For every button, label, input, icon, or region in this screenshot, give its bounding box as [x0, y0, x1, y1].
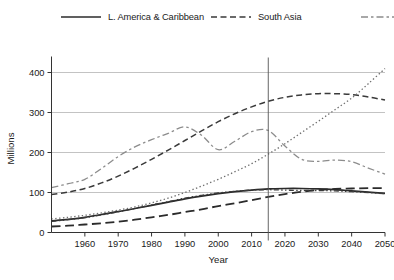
series-line-sub-saharan-africa: [52, 69, 386, 219]
x-tick-label: 2050: [375, 239, 394, 249]
x-tick-label: 1990: [175, 239, 196, 249]
x-tick-label: 2000: [208, 239, 229, 249]
y-tick-label: 300: [29, 108, 45, 118]
gridlines: [52, 73, 386, 193]
chart-svg: 0100200300400196019701980199020002010202…: [0, 0, 394, 280]
x-tick-label: 1980: [141, 239, 162, 249]
x-tick-label: 1970: [108, 239, 129, 249]
axis-group: [48, 57, 386, 237]
series-line-east-asia: [52, 127, 386, 188]
series-lines: [52, 69, 386, 227]
x-axis-title: Year: [209, 254, 229, 265]
x-tick-label: 2040: [341, 239, 362, 249]
y-axis-title: Millions: [5, 132, 16, 164]
plot-area: 0100200300400196019701980199020002010202…: [0, 0, 394, 280]
axis-labels: 0100200300400196019701980199020002010202…: [5, 68, 394, 265]
figure-root: L. America & CaribbeanSouth AsiaEast Asi…: [0, 0, 394, 280]
y-tick-label: 100: [29, 188, 45, 198]
x-tick-label: 2030: [308, 239, 329, 249]
x-tick-label: 2010: [241, 239, 262, 249]
y-tick-label: 400: [29, 68, 45, 78]
y-tick-label: 0: [39, 228, 44, 238]
x-tick-label: 2020: [275, 239, 296, 249]
y-tick-label: 200: [29, 148, 45, 158]
x-tick-label: 1960: [75, 239, 96, 249]
